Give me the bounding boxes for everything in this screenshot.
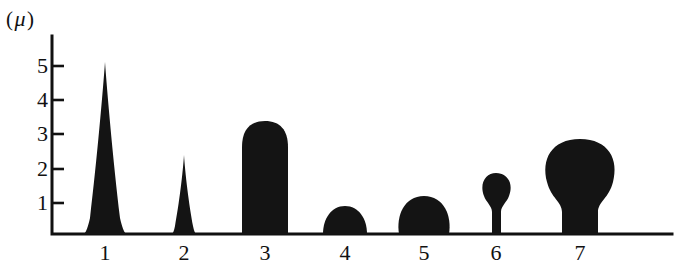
profile-shape-7 [545,139,614,234]
profile-shape-1 [84,62,126,234]
profile-shape-2 [172,155,196,234]
profile-shape-3 [242,121,288,234]
y-tick-label-1: 1 [22,190,48,216]
y-tick-label-5: 5 [22,53,48,79]
x-tick-label-2: 2 [167,240,201,266]
y-tick-marks [52,66,64,203]
unit-close-paren: ) [27,7,35,31]
y-tick-label-2: 2 [22,156,48,182]
x-tick-label-7: 7 [563,240,597,266]
y-tick-label-4: 4 [22,87,48,113]
profile-shape-6 [482,173,510,234]
x-tick-label-3: 3 [248,240,282,266]
x-tick-label-5: 5 [407,240,441,266]
y-tick-label-3: 3 [22,121,48,147]
profile-shape-5 [398,196,449,234]
figure-chart: (μ) 5 4 3 2 1 1 2 3 4 5 6 7 [0,0,690,272]
x-tick-label-6: 6 [479,240,513,266]
unit-open-paren: ( [6,7,14,31]
chart-plot-area [0,0,690,272]
y-axis-unit-label: (μ) [6,6,35,32]
x-tick-label-4: 4 [328,240,362,266]
x-tick-label-1: 1 [88,240,122,266]
profile-shape-4 [323,206,367,234]
mu-symbol: μ [14,6,28,31]
